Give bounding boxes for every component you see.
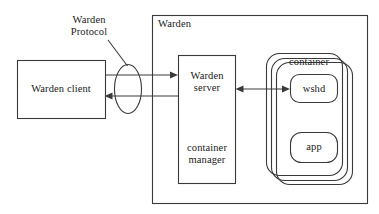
wshd-label: wshd — [291, 83, 337, 95]
arrowhead-to-wshd — [282, 86, 290, 93]
warden-protocol-leader-line — [108, 40, 128, 66]
warden-protocol-label: Warden Protocol — [58, 14, 120, 38]
diagram-vector-layer — [0, 0, 379, 214]
arrowhead-to-server-from-wshd — [236, 86, 244, 93]
container-front-box — [267, 54, 343, 176]
diagram-canvas: Warden Protocol Warden Warden client War… — [0, 0, 379, 214]
warden-server-label: Warden server — [178, 70, 236, 94]
arrowhead-to-server — [170, 72, 178, 79]
warden-protocol-ellipse — [115, 65, 142, 114]
warden-boundary-label: Warden — [158, 18, 210, 30]
container-label: container — [280, 56, 338, 68]
app-label: app — [291, 141, 337, 153]
container-stack-back — [277, 63, 353, 185]
warden-client-label: Warden client — [18, 83, 104, 95]
container-manager-label: container manager — [176, 142, 238, 166]
warden-boundary-box — [153, 16, 368, 204]
